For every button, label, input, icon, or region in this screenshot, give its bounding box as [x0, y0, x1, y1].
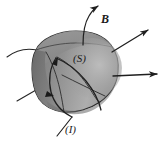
field-line-upper-right: [112, 30, 148, 52]
magnetic-flux-figure: B (S) (I): [0, 0, 166, 146]
field-label-b: B: [101, 13, 109, 25]
surface-patch: [32, 31, 122, 117]
figure-canvas: [0, 0, 166, 146]
surface-label-s: (S): [73, 53, 86, 64]
circuit-label-i: (I): [65, 124, 76, 135]
